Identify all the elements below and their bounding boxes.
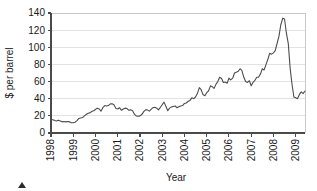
series-line-crude-oil-price xyxy=(51,18,305,123)
plot-frame xyxy=(51,13,305,133)
y-tick-label: 0 xyxy=(39,127,45,138)
x-tick-label: 2000 xyxy=(90,139,101,162)
y-axis-title: $ per barrel xyxy=(4,47,15,98)
gridlines-group xyxy=(51,13,305,116)
x-tick-label: 2006 xyxy=(223,139,234,162)
x-axis-title: Year xyxy=(166,172,187,183)
x-tick-label: 2005 xyxy=(201,139,212,162)
y-tick-label: 40 xyxy=(34,93,46,104)
x-tick-label: 2009 xyxy=(290,139,301,162)
x-tick-label: 2004 xyxy=(179,139,190,162)
x-tick-label: 2007 xyxy=(246,139,257,162)
x-tick-label: 2002 xyxy=(134,139,145,162)
data-series-group xyxy=(51,18,305,123)
y-axis-tick-labels-group: 020406080100120140 xyxy=(28,7,45,138)
x-tick-label: 1999 xyxy=(68,139,79,162)
chart-container: 020406080100120140 199819992000200120022… xyxy=(0,0,317,191)
x-tick-label: 2008 xyxy=(268,139,279,162)
x-tick-label: 2003 xyxy=(157,139,168,162)
y-tick-label: 140 xyxy=(28,7,45,18)
y-tick-label: 60 xyxy=(34,76,46,87)
line-chart: 020406080100120140 199819992000200120022… xyxy=(0,0,317,191)
x-axis-tick-labels-group: 1998199920002001200220032004200520062007… xyxy=(45,139,301,162)
y-tick-label: 20 xyxy=(34,110,46,121)
y-tick-label: 100 xyxy=(28,42,45,53)
axis-lines-group xyxy=(51,13,305,133)
x-tick-label: 1998 xyxy=(45,139,56,162)
y-tick-label: 80 xyxy=(34,59,46,70)
x-tick-label: 2001 xyxy=(112,139,123,162)
y-tick-label: 120 xyxy=(28,25,45,36)
triangle-marker xyxy=(18,182,26,188)
